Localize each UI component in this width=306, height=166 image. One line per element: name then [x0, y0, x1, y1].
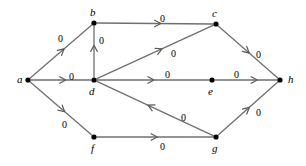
edge-g-d	[96, 81, 213, 136]
node-label-h: h	[288, 74, 294, 85]
node-label-a: a	[17, 74, 23, 85]
edge-label-d-b: 0	[99, 36, 104, 46]
edge-label-f-g: 0	[160, 142, 165, 152]
node-g	[213, 134, 218, 139]
edge-label-a-d: 0	[69, 72, 74, 82]
edge-a-f	[30, 82, 92, 136]
graph-canvas	[0, 0, 306, 166]
node-f	[91, 134, 96, 139]
edge-b-c	[97, 23, 214, 24]
node-label-b: b	[90, 7, 96, 18]
edge-d-c	[96, 25, 213, 79]
node-label-g: g	[212, 143, 218, 154]
flow-network-figure: abcdefgh 000000000000	[0, 0, 306, 166]
edge-label-a-f: 0	[62, 120, 67, 130]
edge-label-e-h: 0	[234, 70, 239, 80]
node-label-e: e	[208, 86, 213, 97]
node-b	[91, 20, 96, 25]
edge-g-h	[218, 82, 278, 136]
edge-label-c-h: 0	[256, 50, 261, 60]
node-label-c: c	[212, 8, 217, 19]
node-label-f: f	[91, 143, 94, 154]
edge-label-g-h: 0	[256, 108, 261, 118]
edge-label-g-d: 0	[181, 113, 186, 123]
node-label-d: d	[89, 86, 95, 97]
node-e	[209, 77, 214, 82]
edge-label-d-e: 0	[165, 70, 170, 80]
node-h	[277, 77, 282, 82]
edge-label-b-c: 0	[160, 14, 165, 24]
node-a	[25, 77, 30, 82]
edge-label-d-c: 0	[171, 49, 176, 59]
node-c	[213, 21, 218, 26]
node-d	[91, 77, 96, 82]
edge-c-h	[218, 26, 278, 79]
edge-label-a-b: 0	[58, 34, 63, 44]
